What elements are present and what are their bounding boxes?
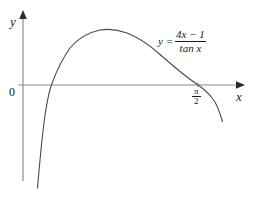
function-graph-figure: y x 0 π 2 y = 4x − 1 tan x xyxy=(0,0,258,199)
origin-label: 0 xyxy=(9,86,15,98)
x-axis-arrowhead xyxy=(236,81,245,89)
equation-lhs: y = xyxy=(158,36,173,47)
x-axis-label: x xyxy=(236,90,242,103)
equation-fraction: 4x − 1 tan x xyxy=(175,29,206,54)
equation-denominator: tan x xyxy=(175,42,206,54)
y-axis-label: y xyxy=(10,15,16,28)
equation-numerator: 4x − 1 xyxy=(175,29,206,42)
x-tick-label-pi-over-2: π 2 xyxy=(192,87,201,106)
plot-canvas xyxy=(0,0,258,199)
equation-annotation: y = 4x − 1 tan x xyxy=(158,29,206,54)
y-axis-arrowhead xyxy=(19,10,27,19)
tick-fraction-denominator: 2 xyxy=(192,97,201,106)
